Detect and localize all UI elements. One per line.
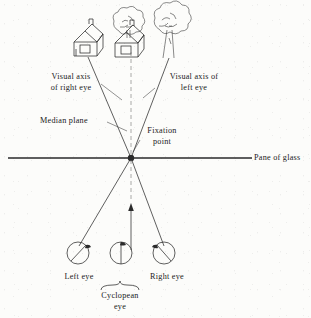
tree-right-icon [154,1,191,58]
label-visual-axis-right-eye: Visual axis of right eye [40,72,102,93]
fixation-point-line-2: point [140,137,184,148]
leader-median-plane [107,122,127,131]
visual-axis-left-line-1: Visual axis of [158,72,230,83]
leader-visual-axis-left [143,88,155,98]
cyclopean-line-1: Cyclopean [94,291,146,302]
visual-axis-left-line-2: left eye [158,83,230,94]
label-pane-of-glass: Pane of glass [254,153,300,164]
label-left-eye: Left eye [55,272,103,283]
cyclopean-axis-arrowhead [128,203,134,211]
visual-axis-right-line-1: Visual axis [40,72,102,83]
label-right-eye: Right eye [141,272,193,283]
leader-visual-axis-right [101,84,122,100]
label-fixation-point: Fixation point [140,126,184,147]
visual-axis-right-line-2: of right eye [40,83,102,94]
house-center-icon [113,6,145,57]
visual-axis-to-right-eye [131,158,164,246]
cyclopean-line-2: eye [94,302,146,313]
fixation-point-line-1: Fixation [140,126,184,137]
cyclopean-eye-brace [101,281,139,290]
vision-diagram-figure: Visual axis of right eye Visual axis of … [0,0,311,318]
cyclopean-eye-icon [110,242,132,264]
leader-fixation-point [133,140,140,152]
visual-axis-to-left-eye [79,158,131,246]
label-visual-axis-left-eye: Visual axis of left eye [158,72,230,93]
house-left-icon [74,19,103,56]
label-cyclopean-eye: Cyclopean eye [94,291,146,312]
label-median-plane: Median plane [40,116,88,127]
